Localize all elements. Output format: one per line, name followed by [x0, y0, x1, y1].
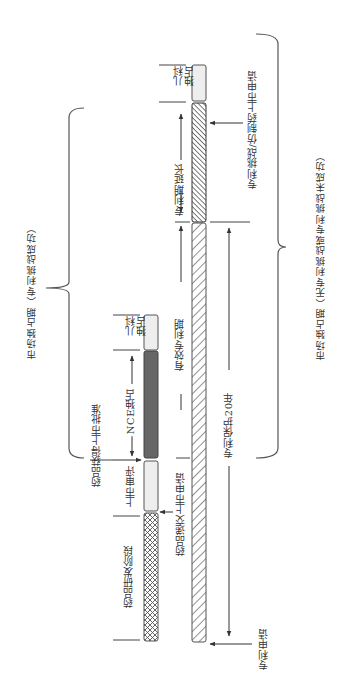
patent-protection-label: 专利保护20年 — [224, 392, 234, 458]
timeline-diagram — [0, 0, 337, 698]
nce-exclusivity-bar — [144, 351, 158, 458]
pediatric-label-patent: 儿科 独占 — [173, 66, 195, 86]
patent-extension-label: 专利期延长 — [175, 163, 185, 216]
drug-track — [144, 315, 158, 641]
tick-lines — [90, 65, 250, 640]
patent-track — [192, 65, 206, 642]
nce-label: NCE独占 — [126, 386, 136, 436]
pediatric-label-drug: 儿科 独占 — [125, 316, 147, 336]
right-brace — [256, 34, 286, 458]
patent-extension-bar — [192, 103, 206, 222]
rd-phase-bar — [144, 513, 158, 641]
left-brace — [46, 108, 84, 458]
submission-label: 药品递交上市申请 — [176, 472, 186, 556]
effective-patent-label: 有效专利期 — [175, 318, 185, 371]
approval-label: 药品获得上市批准 — [92, 403, 102, 487]
left-brace-label: 市场独占期（专利挑战成功） — [27, 222, 37, 359]
review-label: 上市审评 — [126, 465, 136, 507]
right-brace-label: 市场独占期（无专利挑战或专利挑战未成功） — [316, 150, 326, 360]
effective-patent-bar — [192, 223, 206, 642]
patent-filing-label: 专利申请 — [259, 628, 269, 670]
review-bar — [144, 461, 158, 511]
challenge-label: 专利挑战/仿制药上市申请 — [248, 70, 258, 189]
rd-phase-label: 药品研发阶段 — [124, 545, 134, 608]
